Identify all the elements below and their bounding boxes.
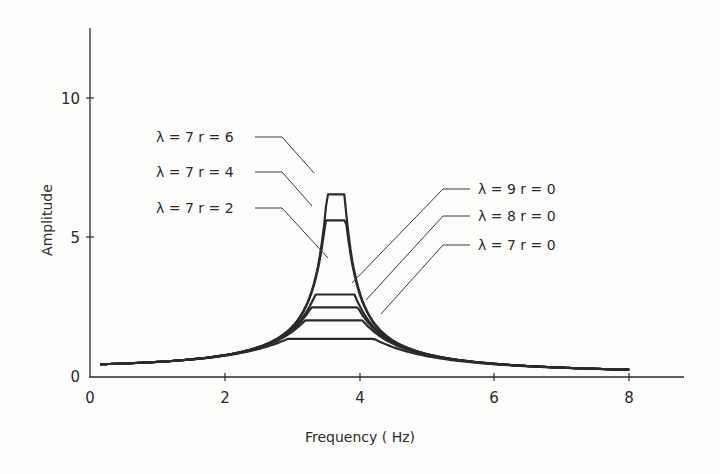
leader-line-l7-r2: [255, 208, 328, 258]
curve-label-l9-r0: λ = 9 r = 0: [478, 181, 556, 197]
y-axis-title: Amplitude: [39, 184, 55, 256]
x-tick-label-8: 8: [624, 389, 634, 407]
leader-line-l7-r0: [381, 245, 470, 314]
curve-label-l7-r4: λ = 7 r = 4: [156, 164, 234, 180]
leader-line-l7-r6: [255, 137, 314, 173]
resonance-amplitude-chart: 10 5 0 0 2 4 6 8 Frequency ( Hz) Amplitu…: [0, 0, 720, 474]
curve-label-l7-r2: λ = 7 r = 2: [156, 200, 234, 216]
leader-line-l8-r0: [366, 216, 470, 300]
curve-7-r-0: [100, 339, 629, 370]
leader-line-l7-r4: [255, 172, 312, 206]
curve-8-r-0: [100, 320, 629, 369]
curve-label-l7-r6: λ = 7 r = 6: [156, 129, 234, 145]
x-tick-label-6: 6: [489, 389, 499, 407]
leader-lines: [255, 137, 470, 314]
x-tick-label-2: 2: [220, 389, 230, 407]
x-axis-title: Frequency ( Hz): [305, 429, 415, 445]
x-tick-label-0: 0: [85, 389, 95, 407]
curve-label-l7-r0: λ = 7 r = 0: [478, 237, 556, 253]
y-tick-label-10: 10: [61, 90, 80, 108]
x-tick-label-4: 4: [355, 389, 365, 407]
leader-line-l9-r0: [352, 189, 470, 283]
y-tick-label-0: 0: [70, 368, 80, 386]
curve-label-l8-r0: λ = 8 r = 0: [478, 208, 556, 224]
y-tick-label-5: 5: [70, 229, 80, 247]
